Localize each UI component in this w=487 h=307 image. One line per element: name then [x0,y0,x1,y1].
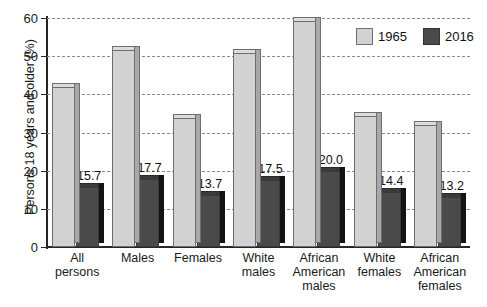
bar-1965 [354,116,377,247]
category-label-line: African [410,251,470,265]
bar-side-face [135,46,140,243]
category-label-line: American [289,265,349,279]
bar-value-label: 14.4 [379,174,403,188]
bar-1965 [173,118,196,247]
bar-side-face [220,191,225,243]
category-label-line: American [410,265,470,279]
y-axis-tick-label: 0 [31,240,38,255]
bar-side-face [316,17,321,243]
bar-value-label: 20.0 [319,153,343,167]
bar-value-label: 13.7 [198,177,222,191]
y-axis-tick-label: 20 [24,163,38,178]
plot-area: 0102030405060 15.717.713.717.520.014.413… [47,18,470,247]
category-label-line: Males [107,251,167,265]
category-label-line: White [349,251,409,265]
bar-top-face [293,17,316,21]
bar-1965 [112,50,135,247]
bar-front-face [354,116,377,247]
tick-mark [41,247,46,248]
bar-side-face [75,83,80,243]
tick-mark [41,209,46,210]
bar-1965 [52,87,75,247]
x-axis-category-label: AfricanAmericanfemales [410,251,470,293]
bar-side-face [256,49,261,243]
bar-front-face [52,87,75,247]
bar-1965 [233,53,256,247]
y-axis-tick-label: 50 [24,49,38,64]
bar-top-face [354,112,377,116]
bar-group: 13.7 [168,18,228,247]
x-axis-category-label: Whitemales [228,251,288,279]
x-axis-category-label: Whitefemales [349,251,409,279]
x-axis-category-label: Females [168,251,228,265]
bar-front-face [293,21,316,247]
bar-side-face [461,193,466,243]
bar-front-face [173,118,196,247]
bar-1965 [293,21,316,247]
category-label-line: Females [168,251,228,265]
bar-top-face [52,83,75,87]
bar-front-face [112,50,135,247]
tick-mark [41,171,46,172]
bar-value-label: 17.5 [258,162,282,176]
tick-mark [41,56,46,57]
category-label-line: females [349,265,409,279]
bar-side-face [196,114,201,243]
y-axis-tick-label: 40 [24,87,38,102]
category-label-line: persons [47,265,107,279]
y-axis-tick-label: 60 [24,11,38,26]
bar-value-label: 17.7 [137,161,161,175]
bar-top-face [233,49,256,53]
bar-side-face [401,188,406,243]
bar-side-face [340,167,345,243]
bar-group: 13.2 [410,18,470,247]
legend-swatch-2016 [423,28,440,45]
y-axis-tick-label: 10 [24,201,38,216]
tick-mark [41,94,46,95]
bar-top-face [173,114,196,118]
chart-legend: 1965 2016 [356,28,474,45]
tick-mark [41,18,46,19]
bar-group: 15.7 [47,18,107,247]
bar-top-face [112,46,135,50]
legend-swatch-1965 [356,28,373,45]
category-label-line: males [289,279,349,293]
bar-top-face [414,121,437,125]
bar-side-face [159,175,164,243]
bar-1965 [414,125,437,247]
bar-group: 17.7 [107,18,167,247]
bar-group: 20.0 [289,18,349,247]
bar-value-label: 13.2 [440,179,464,193]
legend-item-2016: 2016 [423,28,474,45]
category-label-line: males [228,265,288,279]
bar-side-face [99,183,104,243]
category-label-line: females [410,279,470,293]
bar-side-face [437,121,442,243]
bar-group: 17.5 [228,18,288,247]
chart-figure: Persons 18 years and older (%) 010203040… [0,0,487,307]
bar-side-face [280,176,285,243]
legend-label-2016: 2016 [445,29,474,44]
x-axis-category-label: Allpersons [47,251,107,279]
legend-label-1965: 1965 [378,29,407,44]
tick-mark [41,133,46,134]
category-label-line: White [228,251,288,265]
x-axis-category-label: AfricanAmericanmales [289,251,349,293]
category-label-line: All [47,251,107,265]
bar-group: 14.4 [349,18,409,247]
bar-front-face [233,53,256,247]
bar-side-face [377,112,382,243]
x-axis-category-label: Males [107,251,167,265]
bar-front-face [414,125,437,247]
legend-item-1965: 1965 [356,28,407,45]
bar-value-label: 15.7 [77,169,101,183]
category-label-line: African [289,251,349,265]
y-axis-tick-label: 30 [24,125,38,140]
